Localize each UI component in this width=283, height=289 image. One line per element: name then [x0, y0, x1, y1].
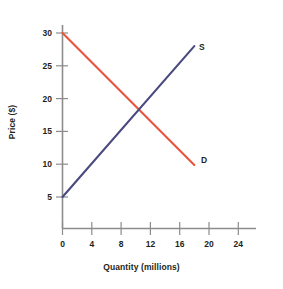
- data-series: [63, 33, 195, 197]
- demand-curve-label: D: [201, 155, 207, 165]
- y-tick-label-30: 30: [26, 28, 52, 38]
- supply-curve: [63, 46, 195, 197]
- y-axis-title: Price ($): [7, 82, 17, 162]
- x-tick-label-8: 8: [109, 239, 133, 249]
- x-axis-title: Quantity (millions): [0, 262, 283, 272]
- x-tick-label-4: 4: [80, 239, 104, 249]
- y-tick-label-25: 25: [26, 61, 52, 71]
- supply-demand-chart: 30 25 20 15 10 5 0 4 8 12 16 20 24 S D Q…: [0, 0, 283, 289]
- axis-lines: [63, 25, 257, 229]
- y-tick-label-20: 20: [26, 94, 52, 104]
- x-tick-label-0: 0: [51, 239, 75, 249]
- demand-curve: [63, 33, 195, 165]
- x-tick-label-20: 20: [197, 239, 221, 249]
- x-tick-label-12: 12: [138, 239, 162, 249]
- x-tick-label-16: 16: [168, 239, 192, 249]
- y-tick-label-10: 10: [26, 159, 52, 169]
- y-tick-label-5: 5: [26, 192, 52, 202]
- y-tick-label-15: 15: [26, 126, 52, 136]
- x-tick-label-24: 24: [226, 239, 250, 249]
- supply-curve-label: S: [199, 42, 205, 52]
